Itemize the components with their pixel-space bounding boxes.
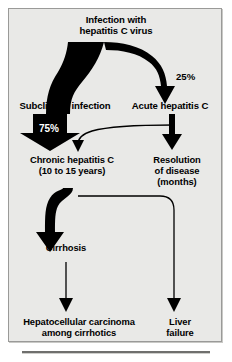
edge-acute-to-chronic-head (72, 140, 84, 152)
node-chronic: Chronic hepatitis C (10 to 15 years) (10, 154, 134, 176)
label-acute-percentage: 25% (176, 71, 195, 82)
node-hepatocellular-carcinoma: Hepatocellular carcinoma among cirrhotic… (8, 316, 150, 338)
edge-acute-to-resolution (162, 114, 182, 150)
label-subclinical-percentage: 75% (39, 123, 59, 134)
edge-chronic-to-liver-failure-head (167, 298, 181, 312)
node-subclinical: Subclinical infection (10, 101, 120, 112)
edge-infection-to-acute (104, 42, 175, 104)
node-acute: Acute hepatitis C (120, 101, 220, 112)
edge-cirrhosis-to-hcc-head (59, 298, 73, 312)
node-resolution: Resolution of disease (months) (136, 154, 218, 187)
node-liver-failure: Liver failure (148, 316, 212, 338)
node-cirrhosis: Cirrhosis (18, 243, 114, 254)
edge-acute-to-chronic (78, 125, 173, 144)
node-infection: Infection with hepatitis C virus (38, 14, 194, 36)
hepatitis-c-natural-history-figure: Infection with hepatitis C virus Subclin… (0, 0, 232, 362)
figure-bottom-rule (22, 351, 210, 353)
